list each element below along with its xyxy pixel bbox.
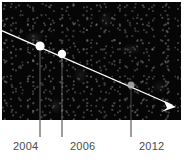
- trend-arrowhead-icon: [161, 101, 176, 112]
- axis-label-2012: 2012: [139, 139, 164, 153]
- axis-year-labels: 2004 2006 2012: [0, 139, 185, 157]
- chart-overlay: [0, 0, 185, 162]
- drop-lines-group: [40, 47, 131, 120]
- data-point-2006: [58, 50, 66, 58]
- trend-line: [0, 29, 172, 105]
- axis-label-2006: 2006: [70, 139, 95, 153]
- data-point-2004: [35, 41, 44, 50]
- axis-ticks-group: [40, 120, 131, 137]
- trend-line-group: [0, 29, 176, 112]
- axis-label-2004: 2004: [13, 139, 38, 153]
- chart-figure: 2004 2006 2012: [0, 0, 185, 162]
- data-point-2012: [127, 81, 134, 88]
